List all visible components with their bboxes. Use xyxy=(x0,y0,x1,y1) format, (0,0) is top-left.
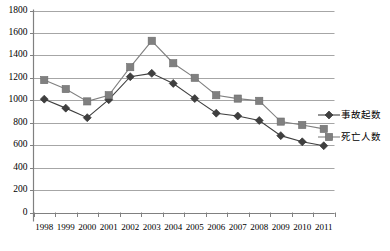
data-point-marker xyxy=(40,95,48,103)
data-point-marker xyxy=(234,112,242,120)
y-axis-tick-label: 400 xyxy=(13,163,27,173)
data-point-marker xyxy=(191,95,199,103)
series-1 xyxy=(40,69,328,149)
data-point-marker xyxy=(127,64,134,71)
x-axis-tick-label: 2011 xyxy=(311,223,337,232)
y-axis-tick-label: 1600 xyxy=(9,28,28,38)
data-point-marker xyxy=(234,95,241,102)
data-point-marker xyxy=(277,118,284,125)
y-axis-tick-label: 1200 xyxy=(9,73,28,83)
data-point-marker xyxy=(62,104,70,112)
y-axis-tick-label: 1800 xyxy=(9,6,28,16)
axes xyxy=(30,10,336,222)
data-point-marker xyxy=(41,76,48,83)
data-point-marker xyxy=(298,138,306,146)
data-point-marker xyxy=(277,132,285,140)
y-axis-tick-label: 200 xyxy=(13,185,27,195)
y-axis-tick-label: 800 xyxy=(13,118,27,128)
data-point-marker xyxy=(84,98,91,105)
data-point-marker xyxy=(148,37,155,44)
y-axis-tick-label: 1400 xyxy=(9,50,28,60)
chart-plot-area xyxy=(0,0,390,251)
data-point-marker xyxy=(191,74,198,81)
legend-marker-diamond-icon xyxy=(318,109,340,121)
legend-marker-square-icon xyxy=(318,131,340,143)
grid-lines xyxy=(34,12,335,214)
data-point-marker xyxy=(170,60,177,67)
legend-label: 死亡人数 xyxy=(341,132,381,142)
data-point-marker xyxy=(299,121,306,128)
data-point-marker xyxy=(62,85,69,92)
data-point-marker xyxy=(256,97,263,104)
data-point-marker xyxy=(169,79,177,87)
y-axis-tick-label: 0 xyxy=(23,208,28,218)
data-point-marker xyxy=(148,69,156,77)
line-chart: 180016001400120010008006004002000 199819… xyxy=(0,0,390,251)
y-axis-tick-label: 1000 xyxy=(9,95,28,105)
data-point-marker xyxy=(213,92,220,99)
data-point-marker xyxy=(212,109,220,117)
y-axis-tick-label: 600 xyxy=(13,140,27,150)
data-point-marker xyxy=(105,92,112,99)
legend-label: 事故起数 xyxy=(341,110,381,120)
